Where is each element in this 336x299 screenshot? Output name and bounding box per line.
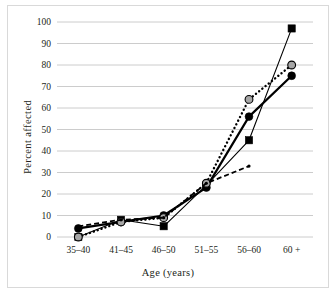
x-tick-label: 60 +	[262, 245, 322, 255]
y-tick-label: 80	[25, 60, 51, 70]
y-tick-label: 100	[25, 17, 51, 27]
data-series	[74, 25, 295, 241]
y-tick-label: 10	[25, 211, 51, 221]
y-tick-label: 90	[25, 39, 51, 49]
y-tick-label: 70	[25, 82, 51, 92]
figure-container: 0102030405060708090100 35–4041–4546–5051…	[0, 0, 336, 299]
gridlines	[57, 22, 313, 237]
y-tick-label: 0	[25, 232, 51, 242]
y-tick-label: 20	[25, 189, 51, 199]
y-axis-title: Percent affected	[22, 99, 33, 173]
x-axis-title: Age (years)	[0, 267, 336, 278]
